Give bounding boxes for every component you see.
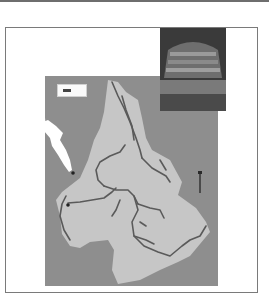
city-dot-2	[66, 203, 70, 207]
dam-photo	[160, 28, 226, 111]
dam-photo-inset	[160, 28, 226, 111]
map-caption	[47, 286, 187, 291]
city-dot-1	[71, 171, 75, 175]
map-legend	[57, 84, 87, 97]
north-arrow-icon	[199, 171, 201, 193]
river-basin-map	[0, 0, 269, 306]
legend-swatch	[63, 89, 71, 92]
